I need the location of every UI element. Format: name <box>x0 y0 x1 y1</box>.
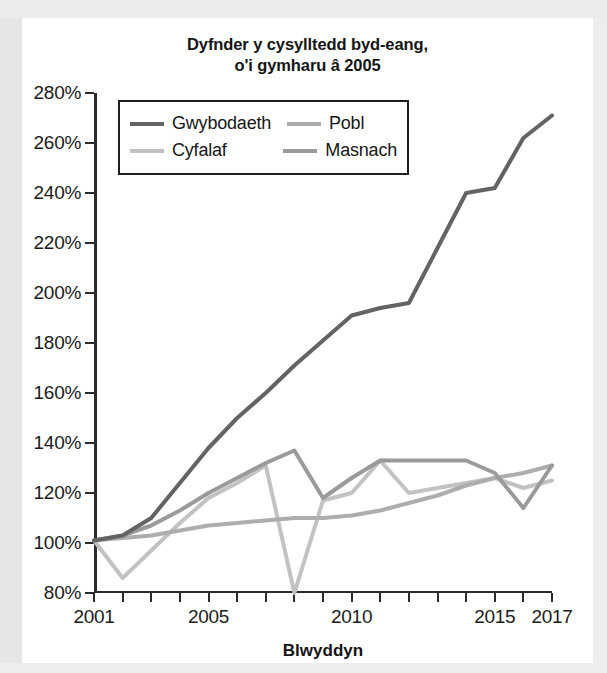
line-chart: Dyfnder y cysylltedd byd-eang, o'i gymha… <box>22 18 593 663</box>
x-tick-2006 <box>236 593 238 602</box>
y-tick-240 <box>85 192 94 194</box>
page-sheet: Dyfnder y cysylltedd byd-eang, o'i gymha… <box>22 18 593 663</box>
y-tick-label-260: 260% <box>34 132 81 154</box>
x-tick-2009 <box>322 593 324 602</box>
x-tick-2013 <box>437 593 439 602</box>
series-line-masnach <box>94 451 552 541</box>
x-tick-2004 <box>179 593 181 602</box>
y-tick-200 <box>85 292 94 294</box>
legend-item-pobl: Pobl <box>287 113 364 134</box>
x-tick-2016 <box>522 593 524 602</box>
legend-label-cyfalaf: Cyfalaf <box>172 140 227 161</box>
y-tick-label-80: 80% <box>44 582 81 604</box>
x-tick-2015 <box>494 593 496 602</box>
legend-label-pobl: Pobl <box>329 113 364 134</box>
legend-swatch-cyfalaf <box>130 149 164 153</box>
x-axis-title: Blwyddyn <box>94 641 552 661</box>
legend-item-cyfalaf: Cyfalaf <box>130 140 283 161</box>
legend-swatch-masnach <box>283 149 317 153</box>
x-tick-label-2017: 2017 <box>531 606 572 628</box>
y-tick-label-240: 240% <box>34 182 81 204</box>
y-tick-160 <box>85 392 94 394</box>
chart-legend: Gwybodaeth Pobl Cyfalaf Masnach <box>118 100 409 175</box>
y-tick-label-120: 120% <box>34 482 81 504</box>
legend-row-1: Gwybodaeth Pobl <box>130 110 397 137</box>
x-tick-2010 <box>351 593 353 602</box>
y-tick-180 <box>85 342 94 344</box>
y-tick-label-140: 140% <box>34 432 81 454</box>
chart-title: Dyfnder y cysylltedd byd-eang, o'i gymha… <box>22 34 593 76</box>
legend-row-2: Cyfalaf Masnach <box>130 137 397 164</box>
legend-swatch-gwybodaeth <box>130 122 164 126</box>
x-tick-2001 <box>93 593 95 602</box>
y-tick-140 <box>85 442 94 444</box>
x-tick-2011 <box>379 593 381 602</box>
y-tick-label-180: 180% <box>34 332 81 354</box>
x-tick-2005 <box>208 593 210 602</box>
y-tick-label-100: 100% <box>34 532 81 554</box>
x-tick-2012 <box>408 593 410 602</box>
legend-swatch-pobl <box>287 122 321 126</box>
y-tick-label-220: 220% <box>34 232 81 254</box>
x-tick-2017 <box>551 593 553 602</box>
legend-item-gwybodaeth: Gwybodaeth <box>130 113 287 134</box>
x-tick-label-2001: 2001 <box>73 606 114 628</box>
y-tick-label-280: 280% <box>34 82 81 104</box>
x-tick-2003 <box>150 593 152 602</box>
legend-item-masnach: Masnach <box>283 140 397 161</box>
legend-label-gwybodaeth: Gwybodaeth <box>172 113 271 134</box>
x-tick-label-2010: 2010 <box>331 606 372 628</box>
y-tick-100 <box>85 542 94 544</box>
x-tick-2014 <box>465 593 467 602</box>
y-tick-260 <box>85 142 94 144</box>
y-tick-220 <box>85 242 94 244</box>
y-tick-120 <box>85 492 94 494</box>
y-tick-280 <box>85 92 94 94</box>
x-tick-label-2005: 2005 <box>188 606 229 628</box>
x-tick-label-2015: 2015 <box>474 606 515 628</box>
x-tick-2007 <box>265 593 267 602</box>
scanned-page-background: Dyfnder y cysylltedd byd-eang, o'i gymha… <box>0 0 607 673</box>
series-line-gwybodaeth <box>94 116 552 541</box>
legend-label-masnach: Masnach <box>325 140 397 161</box>
x-tick-2002 <box>122 593 124 602</box>
y-tick-label-200: 200% <box>34 282 81 304</box>
y-tick-label-160: 160% <box>34 382 81 404</box>
